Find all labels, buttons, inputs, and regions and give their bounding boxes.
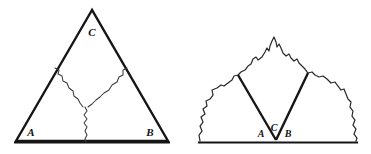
vertex-label-a-left: A (26, 126, 34, 138)
vertex-label-a-right: A (257, 128, 265, 139)
canvas-background (0, 0, 371, 154)
figure-root: C A B A C B (0, 0, 371, 154)
vertex-label-b-left: B (145, 126, 153, 138)
vertex-label-c-left: C (88, 26, 96, 38)
geometry-figure-canvas: C A B A C B (0, 0, 371, 154)
vertex-label-b-right: B (284, 128, 292, 139)
vertex-label-c-right: C (271, 122, 278, 133)
